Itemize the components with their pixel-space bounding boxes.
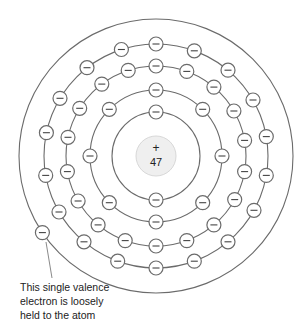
electron bbox=[95, 77, 109, 91]
electron bbox=[221, 235, 235, 249]
electron bbox=[228, 193, 242, 207]
annotation-leader-line bbox=[46, 242, 52, 278]
annotation-line-2: electron is loosely bbox=[20, 294, 109, 308]
electron bbox=[102, 102, 116, 116]
electron bbox=[247, 203, 261, 217]
electron bbox=[39, 126, 53, 140]
electron bbox=[149, 105, 163, 119]
electron bbox=[259, 130, 273, 144]
electron bbox=[187, 254, 201, 268]
electron bbox=[149, 261, 163, 275]
electron bbox=[149, 83, 163, 97]
electron bbox=[73, 101, 87, 115]
electron bbox=[53, 91, 67, 105]
electron bbox=[207, 80, 221, 94]
annotation-line-1: This single valence bbox=[20, 280, 109, 294]
electron bbox=[259, 168, 273, 182]
electron bbox=[52, 205, 66, 219]
electron bbox=[61, 130, 75, 144]
nucleus: + 47 bbox=[136, 136, 176, 176]
electron bbox=[246, 93, 260, 107]
electron bbox=[149, 37, 163, 51]
electron bbox=[111, 254, 125, 268]
electron bbox=[80, 61, 94, 75]
electron bbox=[221, 63, 235, 77]
electron bbox=[196, 102, 210, 116]
nucleus-charge-symbol: + bbox=[152, 141, 159, 155]
electron bbox=[60, 165, 74, 179]
electron bbox=[102, 196, 116, 210]
electron bbox=[227, 104, 241, 118]
electron bbox=[77, 235, 91, 249]
annotation-line-3: held to the atom bbox=[20, 308, 109, 321]
electron bbox=[91, 218, 105, 232]
electron bbox=[83, 149, 97, 163]
nucleus-atomic-number: 47 bbox=[150, 156, 162, 168]
electron bbox=[149, 215, 163, 229]
electron bbox=[238, 165, 252, 179]
electron bbox=[196, 196, 210, 210]
electron bbox=[35, 226, 49, 240]
electron bbox=[187, 44, 201, 58]
valence-annotation: This single valence electron is loosely … bbox=[20, 280, 109, 321]
electron bbox=[149, 193, 163, 207]
electron bbox=[238, 133, 252, 147]
electron bbox=[215, 149, 229, 163]
electron bbox=[71, 194, 85, 208]
electron bbox=[121, 63, 135, 77]
atom-diagram: + 47 bbox=[0, 0, 307, 321]
electron bbox=[118, 234, 132, 248]
electron bbox=[180, 64, 194, 78]
electron bbox=[149, 59, 163, 73]
electron bbox=[39, 168, 53, 182]
electron bbox=[114, 43, 128, 57]
electron bbox=[180, 234, 194, 248]
electron bbox=[149, 239, 163, 253]
electron bbox=[207, 218, 221, 232]
